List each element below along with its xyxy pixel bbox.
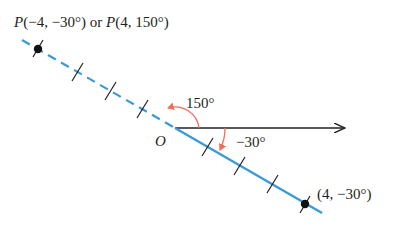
label-angle-150: 150° [186,95,215,111]
label-point-p: P(−4, −30°) or P(4, 150°) [13,14,169,31]
point-q-marker [300,196,310,213]
point-p-marker [33,40,43,57]
label-angle-minus-30: −30° [236,134,265,150]
label-origin: O [155,133,166,149]
label-point-q: (4, −30°) [317,186,371,203]
arc-minus-30-degrees [220,128,225,150]
dashed-ray-150 [22,40,175,128]
tick-marks-left [72,63,148,118]
polar-diagram: P(−4, −30°) or P(4, 150°) 150° O −30° (4… [0,0,413,231]
